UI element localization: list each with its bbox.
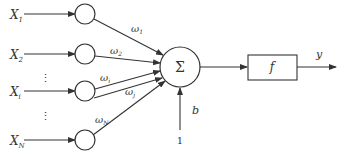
svg-text:X1: X1	[9, 8, 23, 24]
svg-text:Xi: Xi	[9, 85, 21, 101]
weight-label-n: ωN	[95, 114, 109, 126]
ellipsis-1: ⋮	[40, 72, 51, 85]
input-node-2	[75, 44, 95, 64]
bias-input: 1	[177, 135, 183, 146]
input-node-n	[75, 130, 95, 150]
input-node-i	[75, 81, 95, 101]
weight-line-1	[94, 19, 163, 55]
output-label: y	[315, 48, 323, 61]
ellipsis-2: ⋮	[40, 110, 51, 123]
weight-label-1: ω1	[131, 23, 143, 35]
input-x2: X2	[9, 48, 24, 64]
sigma-symbol: Σ	[175, 59, 185, 75]
input-node-1	[75, 4, 95, 24]
input-xi: Xi	[9, 85, 21, 101]
bias-label: b	[192, 104, 199, 117]
weight-label-2: ω2	[110, 45, 122, 57]
svg-text:X2: X2	[9, 48, 24, 64]
input-xn: XN	[9, 134, 26, 150]
weight-label-i: ωi	[100, 72, 110, 84]
input-x1: X1	[9, 8, 23, 24]
svg-text:XN: XN	[9, 134, 26, 150]
weight-label-j: ωj	[125, 86, 135, 99]
weight-line-2	[95, 56, 160, 63]
neuron-diagram: X1 X2 Xi XN ⋮ ⋮ ω1 ω2 ωi ωj ωN Σ b 1 f y	[0, 0, 337, 155]
